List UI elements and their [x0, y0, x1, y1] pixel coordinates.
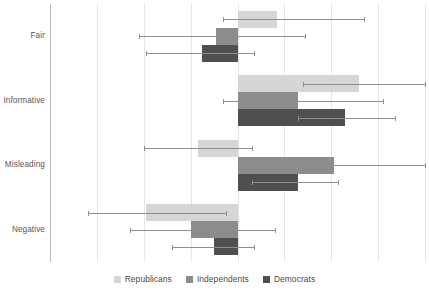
- gridline: [331, 4, 332, 262]
- error-cap-low: [223, 99, 224, 104]
- error-cap-high: [338, 180, 339, 185]
- gridline: [97, 4, 98, 262]
- error-bar-republicans-misleading: [144, 148, 252, 149]
- error-cap-low: [298, 116, 299, 121]
- error-bar-democrats-fair: [146, 53, 254, 54]
- grouped-bar-chart: FairInformativeMisleadingNegative Republ…: [0, 0, 429, 294]
- error-cap-high: [395, 116, 396, 121]
- error-bar-democrats-misleading: [252, 182, 339, 183]
- error-bar-republicans-negative: [88, 213, 226, 214]
- error-bar-independents-negative: [130, 230, 275, 231]
- error-bar-democrats-negative: [172, 247, 254, 248]
- error-cap-low: [252, 180, 253, 185]
- legend-swatch-icon: [186, 276, 193, 283]
- legend-item-republicans[interactable]: Republicans: [114, 274, 172, 284]
- chart-legend: RepublicansIndependentsDemocrats: [0, 274, 429, 284]
- error-bar-republicans-fair: [223, 19, 364, 20]
- error-cap-high: [364, 17, 365, 22]
- error-cap-low: [270, 163, 271, 168]
- error-cap-high: [425, 163, 426, 168]
- y-axis-label-informative: Informative: [0, 96, 45, 106]
- gridline: [144, 4, 145, 262]
- y-axis-label-fair: Fair: [0, 31, 45, 41]
- y-axis-label-misleading: Misleading: [0, 160, 45, 170]
- plot-area: [50, 4, 425, 262]
- error-cap-low: [144, 146, 145, 151]
- error-cap-high: [254, 51, 255, 56]
- zero-gridline: [238, 4, 239, 262]
- error-cap-low: [88, 211, 89, 216]
- error-bar-independents-fair: [139, 36, 305, 37]
- error-cap-low: [139, 34, 140, 39]
- error-cap-low: [146, 51, 147, 56]
- gridline: [50, 4, 51, 262]
- error-cap-low: [172, 245, 173, 250]
- legend-label: Independents: [197, 274, 249, 284]
- error-cap-high: [226, 211, 227, 216]
- legend-label: Democrats: [274, 274, 315, 284]
- error-cap-high: [275, 228, 276, 233]
- error-bar-democrats-informative: [298, 118, 394, 119]
- error-cap-high: [305, 34, 306, 39]
- error-cap-low: [303, 82, 304, 87]
- y-axis-label-negative: Negative: [0, 225, 45, 235]
- legend-label: Republicans: [125, 274, 172, 284]
- error-cap-high: [254, 245, 255, 250]
- gridline: [425, 4, 426, 262]
- legend-item-democrats[interactable]: Democrats: [263, 274, 315, 284]
- error-cap-low: [223, 17, 224, 22]
- gridline: [284, 4, 285, 262]
- error-cap-high: [383, 99, 384, 104]
- error-bar-independents-misleading: [270, 165, 425, 166]
- error-cap-high: [425, 82, 426, 87]
- error-bar-republicans-informative: [303, 84, 425, 85]
- error-bar-independents-informative: [223, 101, 382, 102]
- legend-swatch-icon: [114, 276, 121, 283]
- gridline: [378, 4, 379, 262]
- legend-swatch-icon: [263, 276, 270, 283]
- error-cap-low: [130, 228, 131, 233]
- legend-item-independents[interactable]: Independents: [186, 274, 249, 284]
- error-cap-high: [252, 146, 253, 151]
